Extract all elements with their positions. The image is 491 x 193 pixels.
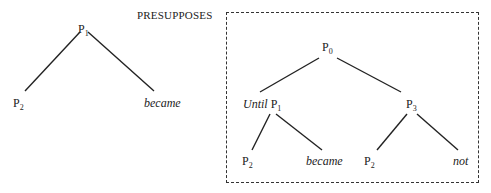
node-base: P [13,96,20,110]
right-tree-p3-node: P3 [406,97,417,116]
p3-right-child-not: not [453,154,468,168]
left-tree-root-node: P1 [78,22,89,41]
until-word: Until [243,97,268,111]
node-base: P [78,22,85,36]
node-base: P [242,154,249,168]
node-base: P [322,40,329,54]
node-base: P [364,154,371,168]
until-left-child-node: P2 [242,154,253,173]
node-subscript: 3 [413,104,417,113]
node-subscript: 0 [329,47,333,56]
node-subscript: 1 [85,29,89,38]
node-subscript: 2 [371,161,375,170]
node-subscript: 2 [249,161,253,170]
left-tree-left-child-node: P2 [13,96,24,115]
right-tree-until-node: Until P1 [243,97,281,116]
node-subscript: 1 [277,104,281,113]
presupposes-label: PRESUPPOSES [137,9,213,21]
until-right-child-became: became [306,154,343,168]
right-tree-root-node: P0 [322,40,333,59]
node-base: P [406,97,413,111]
node-subscript: 2 [20,103,24,112]
p3-left-child-node: P2 [364,154,375,173]
left-tree-right-child-became: became [144,96,181,110]
